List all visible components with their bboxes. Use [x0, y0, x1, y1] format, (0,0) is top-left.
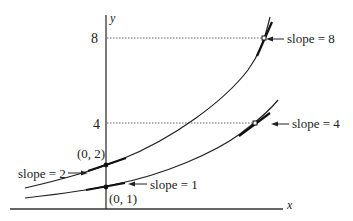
x-axis-label: x — [286, 198, 293, 212]
label-point-0-2: (0, 2) — [77, 146, 105, 161]
label-slope-2: slope = 2 — [18, 166, 66, 181]
y-tick-8: 8 — [91, 31, 98, 46]
label-slope-4: slope = 4 — [292, 116, 340, 131]
marker-y4 — [253, 121, 257, 125]
point-0-1 — [104, 185, 109, 190]
label-slope-1: slope = 1 — [150, 177, 198, 192]
label-slope-8: slope = 8 — [287, 31, 335, 46]
label-point-0-1: (0, 1) — [109, 191, 137, 206]
upper-curve — [25, 17, 270, 188]
arrowhead-slope-1 — [128, 182, 135, 187]
y-tick-4: 4 — [93, 117, 100, 132]
y-axis-label: y — [109, 11, 116, 25]
arrowhead-slope-8 — [266, 37, 273, 42]
exponential-diagram: x y 8 4 (0, 2) (0, 1) slope = 2 slope = … — [0, 0, 353, 221]
marker-y8 — [262, 36, 266, 40]
arrowhead-slope-4 — [271, 122, 278, 127]
point-0-2 — [104, 163, 109, 168]
